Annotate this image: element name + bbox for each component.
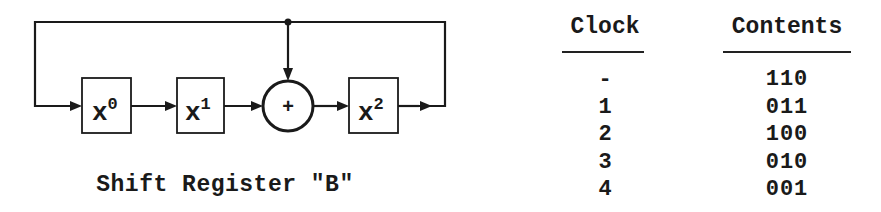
cell-clock: 3 bbox=[560, 149, 650, 176]
cell-contents: 001 bbox=[722, 176, 852, 203]
header-contents-underline bbox=[723, 51, 851, 53]
shift-register-diagram: + x0 x1 x2 bbox=[0, 0, 460, 165]
arrow-tap-into-adder-icon bbox=[283, 68, 293, 81]
cell-contents: 100 bbox=[722, 121, 852, 148]
table-row: 1 011 bbox=[560, 94, 860, 122]
cell-clock: 1 bbox=[560, 94, 650, 121]
table-row: 3 010 bbox=[560, 149, 860, 177]
cell-contents: 011 bbox=[722, 94, 852, 121]
header-clock: Clock bbox=[560, 14, 650, 40]
header-contents: Contents bbox=[722, 14, 852, 40]
table-body: - 110 1 011 2 100 3 010 4 001 bbox=[560, 66, 860, 204]
arrow-into-x2-icon bbox=[337, 101, 349, 111]
arrow-into-adder-icon bbox=[251, 101, 263, 111]
cell-contents: 110 bbox=[722, 66, 852, 93]
table-row: - 110 bbox=[560, 66, 860, 94]
arrow-output-icon bbox=[420, 101, 432, 111]
table-row: 4 001 bbox=[560, 176, 860, 204]
table-row: 2 100 bbox=[560, 121, 860, 149]
cell-clock: - bbox=[560, 66, 650, 93]
diagram-caption: Shift Register "B" bbox=[0, 172, 450, 198]
cell-clock: 2 bbox=[560, 121, 650, 148]
header-clock-underline bbox=[562, 51, 644, 53]
cell-contents: 010 bbox=[722, 149, 852, 176]
arrow-into-x1-icon bbox=[165, 101, 177, 111]
arrow-into-x0-icon bbox=[70, 101, 82, 111]
adder-plus-symbol: + bbox=[282, 95, 294, 117]
cell-clock: 4 bbox=[560, 176, 650, 203]
